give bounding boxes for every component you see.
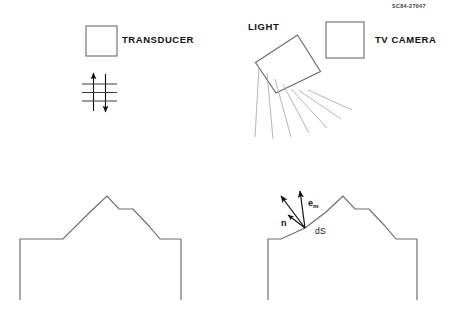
light-label: LIGHT <box>248 22 279 32</box>
n-vector-label: n <box>281 218 287 228</box>
transducer-box <box>86 26 117 56</box>
light-ray-5 <box>291 89 327 128</box>
tv-camera-label: TV CAMERA <box>375 35 436 45</box>
tv-camera-box <box>326 22 364 58</box>
rough-surface-profile-plain <box>20 196 181 239</box>
light-ray-group <box>255 67 352 139</box>
ultrasonic-wave-symbol <box>82 73 117 112</box>
light-ray-4 <box>283 85 309 134</box>
figure-canvas: SC84-27047 TRANSDUCER LIGHT TV CAMERA em… <box>0 0 449 309</box>
light-ray-3 <box>275 79 291 137</box>
tilted-light-source-box <box>256 35 321 93</box>
em-vector-label: em <box>308 198 319 209</box>
substrate-block-left <box>20 239 181 300</box>
corner-reference-code: SC84-27047 <box>392 4 426 9</box>
bottom-left-diagram <box>20 196 181 300</box>
light-ray-2 <box>267 73 273 139</box>
light-ray-7 <box>308 90 352 110</box>
transducer-label: TRANSDUCER <box>122 35 194 45</box>
light-ray-1 <box>255 67 259 137</box>
ds-area-label: dS <box>315 227 326 236</box>
n-overbar-arrow-icon <box>281 214 292 218</box>
em-overbar-arrow-icon <box>308 194 319 198</box>
